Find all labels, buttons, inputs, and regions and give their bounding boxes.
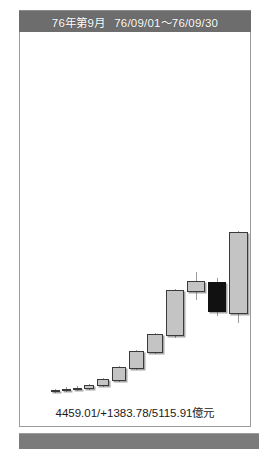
candlestick-plot[interactable] (20, 32, 250, 404)
summary-value-label: 4459.01/+1383.78/5115.91億元 (20, 404, 250, 420)
chart-title: 76年第9月76/09/01～76/09/30 (52, 14, 218, 30)
chart-panel[interactable]: 4459.01/+1383.78/5115.91億元 (19, 32, 251, 427)
bottom-status-strip (19, 433, 259, 449)
candle-13[interactable] (20, 32, 250, 404)
period-label: 76年第9月 (52, 17, 105, 29)
date-range-label: 76/09/01～76/09/30 (114, 17, 218, 29)
chart-title-bar: 76年第9月76/09/01～76/09/30 (19, 10, 251, 33)
